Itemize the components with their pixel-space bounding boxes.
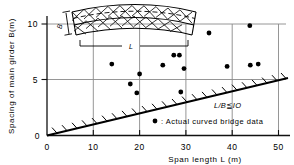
curved-bridge-plan-diagram: B L — [56, 5, 196, 51]
deck-outer-edge — [72, 5, 196, 13]
x-axis-title: Span length L (m) — [168, 155, 242, 164]
data-point — [178, 90, 183, 95]
data-point — [109, 62, 114, 67]
y-tick-label-5: 5 — [33, 75, 38, 85]
data-point — [182, 66, 187, 71]
inset-span-dimension — [80, 40, 188, 46]
data-point — [134, 91, 139, 96]
y-tick-label-0: 0 — [35, 131, 40, 141]
data-point — [225, 64, 230, 69]
x-tick-label-10: 10 — [88, 142, 98, 152]
constraint-line — [47, 78, 288, 136]
x-tick-label-40: 40 — [227, 142, 237, 152]
constraint-line-group: L/B≦IO — [47, 73, 288, 136]
legend: : Actual curved bridge data — [153, 117, 264, 126]
data-point — [160, 63, 165, 68]
chart-svg: 10 5 0 0 10 20 30 40 50 Span length L (m… — [0, 0, 294, 165]
inset-width-dimension — [63, 11, 73, 35]
constraint-label: L/B≦IO — [214, 101, 241, 110]
y-axis-title: Spacing of main girder B(m) — [7, 18, 16, 134]
data-point — [247, 23, 252, 28]
x-tick-label-0: 0 — [44, 142, 49, 152]
deck-end-rib-right — [192, 12, 196, 35]
inset-span-label: L — [129, 43, 133, 50]
figure-container: 10 5 0 0 10 20 30 40 50 Span length L (m… — [0, 0, 294, 165]
x-tick-label-30: 30 — [181, 142, 191, 152]
data-point — [128, 82, 133, 87]
data-point — [248, 63, 253, 68]
y-tick-label-10: 10 — [28, 19, 38, 29]
legend-marker-icon — [153, 119, 158, 124]
data-point — [177, 53, 182, 58]
legend-text: : Actual curved bridge data — [161, 117, 264, 126]
truss-bracing — [72, 6, 195, 35]
x-tick-label-50: 50 — [273, 142, 283, 152]
data-point — [171, 53, 176, 58]
data-point — [137, 72, 142, 77]
data-points — [109, 23, 260, 95]
x-tick-label-20: 20 — [134, 142, 144, 152]
data-point — [207, 31, 212, 36]
data-point — [256, 62, 261, 67]
